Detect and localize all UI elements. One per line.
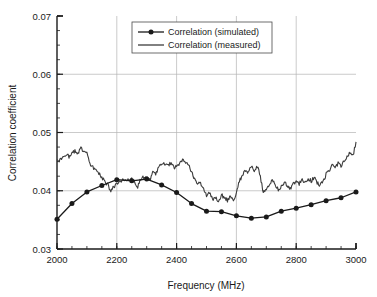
series-marker-simulated: [204, 209, 209, 214]
legend-marker-simulated: [149, 30, 154, 35]
y-tick-label: 0.03: [33, 244, 52, 255]
series-marker-simulated: [159, 182, 164, 187]
correlation-coefficient-chart: 200022002400260028003000 0.030.040.050.0…: [0, 0, 377, 297]
series-marker-simulated: [55, 217, 60, 222]
series-marker-simulated: [99, 183, 104, 188]
series-marker-simulated: [84, 189, 89, 194]
chart-legend: Correlation (simulated)Correlation (meas…: [132, 22, 272, 53]
x-tick-label: 3000: [345, 254, 366, 265]
series-marker-simulated: [309, 202, 314, 207]
series-marker-simulated: [219, 209, 224, 214]
series-marker-simulated: [174, 190, 179, 195]
x-axis-title: Frequency (MHz): [167, 280, 244, 291]
series-marker-simulated: [264, 214, 269, 219]
y-axis-title: Correlation coefficient: [7, 85, 18, 182]
x-tick-label: 2000: [46, 254, 67, 265]
y-tick-label: 0.07: [33, 11, 52, 22]
y-tick-label: 0.04: [33, 185, 52, 196]
legend-label: Correlation (simulated): [168, 27, 259, 37]
series-marker-simulated: [324, 198, 329, 203]
series-marker-simulated: [294, 206, 299, 211]
x-tick-label: 2200: [106, 254, 127, 265]
x-tick-label: 2800: [286, 254, 307, 265]
series-marker-simulated: [69, 201, 74, 206]
chart-figure: 200022002400260028003000 0.030.040.050.0…: [0, 0, 377, 297]
series-marker-simulated: [279, 209, 284, 214]
series-marker-simulated: [234, 213, 239, 218]
x-tick-label: 2600: [226, 254, 247, 265]
series-marker-simulated: [144, 177, 149, 182]
series-marker-simulated: [129, 178, 134, 183]
y-tick-label: 0.06: [33, 69, 52, 80]
legend-label: Correlation (measured): [168, 40, 261, 50]
series-marker-simulated: [249, 216, 254, 221]
y-tick-label: 0.05: [33, 127, 52, 138]
series-marker-simulated: [339, 195, 344, 200]
series-marker-simulated: [114, 177, 119, 182]
x-tick-label: 2400: [166, 254, 187, 265]
series-marker-simulated: [189, 201, 194, 206]
series-marker-simulated: [354, 189, 359, 194]
